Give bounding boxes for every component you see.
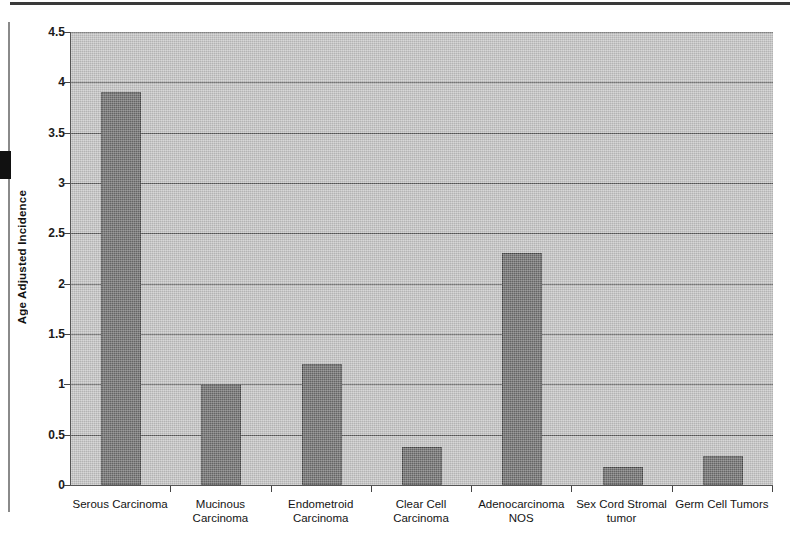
y-axis-tick-label: 3.5 [48, 126, 65, 140]
x-axis-tick-mark [571, 486, 572, 492]
bar-chart-figure: Age Adjusted Incidence 00.511.522.533.54… [0, 0, 799, 540]
y-axis-tick-label: 4.5 [48, 25, 65, 39]
bar [603, 467, 643, 485]
bar [101, 92, 141, 485]
x-axis-tick-mark [772, 486, 773, 492]
x-axis-category-label: Sex Cord Stromal tumor [571, 497, 671, 525]
x-axis-tick-mark [271, 486, 272, 492]
bar [502, 253, 542, 485]
x-axis-tick-mark [170, 486, 171, 492]
gridline [71, 133, 773, 134]
x-axis-category-label: Endometroid Carcinoma [271, 497, 371, 525]
y-axis-tick-label: 2.5 [48, 226, 65, 240]
x-axis-category-label: Adenocarcinoma NOS [471, 497, 571, 525]
x-axis-category-label: Germ Cell Tumors [672, 497, 772, 511]
bar [703, 456, 743, 485]
y-axis-tick-label: 0.5 [48, 428, 65, 442]
x-axis-category-label: Mucinous Carcinoma [170, 497, 270, 525]
plot-texture-overlay [71, 32, 773, 485]
bar [201, 384, 241, 485]
x-axis-tick-mark [672, 486, 673, 492]
gridline [71, 284, 773, 285]
plot-area [70, 32, 773, 486]
bar [302, 364, 342, 485]
gridline [71, 32, 773, 33]
x-axis-category-label: Clear Cell Carcinoma [371, 497, 471, 525]
gridline [71, 384, 773, 385]
x-axis-tick-mark [371, 486, 372, 492]
gridline [71, 183, 773, 184]
y-axis-title: Age Adjusted Incidence [16, 190, 32, 324]
gridline [71, 233, 773, 234]
gridline [71, 334, 773, 335]
gridline [71, 82, 773, 83]
y-axis-tick-label: 1.5 [48, 327, 65, 341]
bar [402, 447, 442, 485]
x-axis-category-label: Serous Carcinoma [70, 497, 170, 511]
x-axis-tick-mark [471, 486, 472, 492]
gridline [71, 435, 773, 436]
